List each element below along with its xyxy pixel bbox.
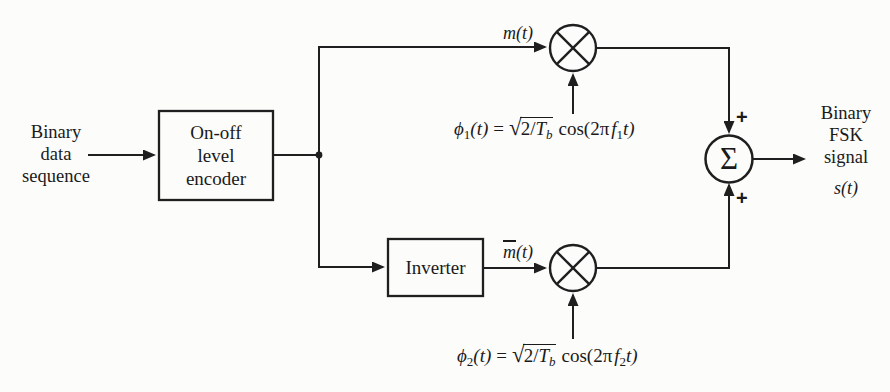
equals-sign: =: [493, 118, 504, 139]
formula-tail: t): [626, 345, 638, 366]
cos-operator: cos(2π: [561, 345, 612, 366]
cos-operator: cos(2π: [558, 118, 609, 139]
phi-args: (t): [473, 345, 491, 366]
mbar-rest: (t): [516, 242, 533, 262]
inverter-label: Inverter: [388, 239, 483, 296]
plus-bottom-label: +: [736, 187, 748, 210]
plus-top-label: +: [736, 106, 748, 129]
phi-symbol: ϕ: [454, 118, 464, 139]
mult2-to-summer-wire: [596, 185, 729, 268]
bottom-branch-wire: [319, 155, 383, 267]
output-label: Binary FSK signal: [805, 102, 887, 168]
s-signal-label: s(t): [826, 178, 866, 199]
input-label: Binary data sequence: [6, 121, 106, 187]
m-signal-text: m(t): [503, 23, 533, 43]
s-signal-text: s(t): [834, 178, 858, 198]
equals-sign: =: [496, 345, 507, 366]
radicand-number: 2/: [524, 345, 539, 366]
mbar-signal-label: m(t): [492, 242, 544, 263]
phi-args: (t): [470, 118, 488, 139]
sqrt-radicand: 2/Tb: [523, 344, 557, 366]
radicand-subscript: b: [546, 127, 553, 142]
phi2-formula: ϕ2(t)=√2/Tbcos(2πf2t): [457, 342, 638, 368]
sigma-label: Σ: [712, 140, 746, 178]
junction-dot: [316, 152, 323, 159]
sqrt-radicand: 2/Tb: [520, 117, 554, 139]
m-signal-label: m(t): [492, 23, 544, 44]
mbar-m: m: [503, 242, 516, 262]
radicand-T: T: [535, 118, 546, 139]
sqrt-sign: √: [512, 342, 523, 367]
fsk-block-diagram: Binary data sequence On-off level encode…: [0, 0, 890, 392]
phi1-formula: ϕ1(t)=√2/Tbcos(2πf1t): [454, 115, 635, 141]
radicand-subscript: b: [549, 354, 556, 369]
formula-tail: t): [623, 118, 635, 139]
encoder-label: On-off level encoder: [159, 111, 273, 200]
sqrt-sign: √: [509, 115, 520, 140]
diagram-wires: [0, 0, 890, 392]
phi-symbol: ϕ: [457, 345, 467, 366]
radicand-T: T: [538, 345, 549, 366]
radicand-number: 2/: [521, 118, 536, 139]
